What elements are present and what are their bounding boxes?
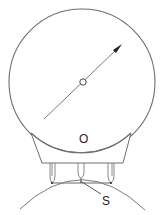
right-leg	[108, 163, 114, 183]
left-tip-dot	[51, 182, 53, 184]
sphere-surface	[20, 180, 145, 210]
needle-pivot	[80, 79, 86, 85]
spherometer-diagram: O S	[0, 0, 160, 215]
label-s: S	[102, 194, 110, 208]
label-o: O	[79, 132, 88, 146]
right-tip-dot	[110, 182, 112, 184]
center-leg	[78, 163, 84, 179]
left-leg	[50, 163, 55, 183]
sagitta-leader	[82, 182, 101, 194]
